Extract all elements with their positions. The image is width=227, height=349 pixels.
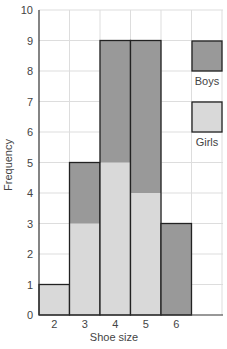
x-tick-label: 5 [143, 318, 149, 330]
legend: Boys Girls [192, 41, 222, 148]
bar-segment-girls [39, 285, 70, 316]
legend-swatch-girls [192, 102, 222, 132]
x-tick-label: 4 [112, 318, 118, 330]
bar-segment-boys [131, 41, 162, 194]
y-tick-label: 0 [27, 309, 33, 321]
x-tick-label: 6 [173, 318, 179, 330]
bar-segment-boys [70, 163, 101, 224]
legend-label-boys: Boys [195, 75, 220, 87]
x-tick-label: 3 [82, 318, 88, 330]
y-axis-label: Frequency [2, 139, 14, 191]
legend-label-girls: Girls [196, 136, 219, 148]
bars [39, 41, 192, 316]
y-tick-label: 1 [27, 279, 33, 291]
y-tick-labels: 012345678910 [21, 4, 33, 321]
legend-swatch-boys [192, 41, 222, 71]
y-tick-label: 6 [27, 126, 33, 138]
x-tick-label: 2 [51, 318, 57, 330]
y-tick-label: 10 [21, 4, 33, 16]
y-tick-label: 4 [27, 187, 33, 199]
bar-segment-girls [131, 193, 162, 315]
y-tick-label: 5 [27, 157, 33, 169]
x-tick-labels: 23456 [51, 318, 179, 330]
y-tick-label: 2 [27, 248, 33, 260]
y-tick-label: 3 [27, 218, 33, 230]
bar-segment-boys [100, 41, 131, 163]
bar-segment-girls [70, 224, 101, 316]
y-tick-label: 7 [27, 96, 33, 108]
y-tick-label: 8 [27, 65, 33, 77]
y-tick-label: 9 [27, 35, 33, 47]
stacked-bar-chart: 012345678910 23456 Shoe size Frequency B… [0, 0, 227, 349]
bar-segment-boys [161, 224, 192, 316]
x-axis-label: Shoe size [90, 331, 138, 343]
bar-segment-girls [100, 163, 131, 316]
